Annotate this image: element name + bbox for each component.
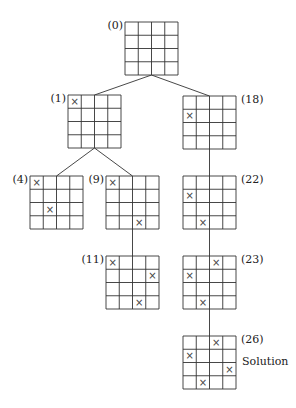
queen-mark-icon: × <box>212 257 220 268</box>
queen-mark-icon: × <box>185 270 193 281</box>
node-label: (0) <box>107 20 123 32</box>
queen-mark-icon: × <box>199 297 207 308</box>
tree-edge <box>95 148 133 176</box>
tree-edge <box>152 75 210 96</box>
board-n9: ×× <box>106 176 159 229</box>
queen-mark-icon: × <box>135 217 143 228</box>
queen-mark-icon: × <box>225 364 233 375</box>
queen-mark-icon: × <box>148 270 156 281</box>
board-n22: ×× <box>183 176 236 229</box>
queen-mark-icon: × <box>108 257 116 268</box>
board-n11: ××× <box>106 256 159 309</box>
queen-mark-icon: × <box>32 177 40 188</box>
solution-label: Solution <box>242 356 288 368</box>
node-label: (22) <box>241 174 264 186</box>
board-n18: × <box>183 96 236 149</box>
node-label: (1) <box>50 93 66 105</box>
queen-mark-icon: × <box>108 177 116 188</box>
tree-edge <box>95 75 152 95</box>
board-grids: ×××××××××××××××××× <box>30 22 236 389</box>
queen-mark-icon: × <box>185 110 193 121</box>
tree-edge <box>57 148 95 176</box>
node-label: (9) <box>88 174 104 186</box>
node-label: (26) <box>241 334 264 346</box>
node-label: (18) <box>241 94 264 106</box>
board-n1: × <box>68 95 121 148</box>
node-label: (23) <box>241 254 264 266</box>
queen-mark-icon: × <box>46 204 54 215</box>
board-n23: ××× <box>183 256 236 309</box>
board-n0 <box>125 22 178 75</box>
queen-mark-icon: × <box>185 350 193 361</box>
queen-mark-icon: × <box>212 337 220 348</box>
node-label: (11) <box>81 254 104 266</box>
queen-mark-icon: × <box>135 297 143 308</box>
queen-mark-icon: × <box>185 190 193 201</box>
board-n4: ×× <box>30 176 83 229</box>
node-label: (4) <box>12 174 28 186</box>
queen-mark-icon: × <box>70 96 78 107</box>
board-n26: ×××× <box>183 336 236 389</box>
search-tree-diagram: ×××××××××××××××××× <box>0 0 296 408</box>
queen-mark-icon: × <box>199 377 207 388</box>
queen-mark-icon: × <box>199 217 207 228</box>
